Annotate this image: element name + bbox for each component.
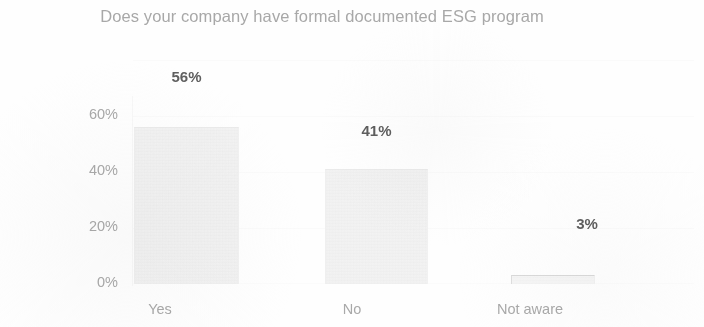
y-tick-text: 40%: [89, 162, 118, 178]
x-category-label-yes: Yes: [100, 301, 220, 317]
y-tick-text: 0%: [97, 274, 118, 290]
y-tick-label-20: 20%: [0, 218, 118, 234]
data-label-no: 41%: [325, 122, 428, 139]
x-category-text: No: [343, 301, 362, 317]
gridline-40: [133, 116, 694, 117]
y-tick-label-0: 0%: [0, 274, 118, 290]
bar-chart: Does your company have formal documented…: [0, 0, 704, 327]
y-tick-text: 60%: [89, 106, 118, 122]
x-category-label-not-aware: Not aware: [468, 301, 592, 317]
chart-title: Does your company have formal documented…: [0, 7, 704, 26]
x-category-text: Not aware: [497, 301, 563, 317]
gridline-60: [133, 60, 694, 61]
data-label-yes: 56%: [134, 68, 239, 85]
data-label-not-aware: 3%: [545, 215, 629, 232]
y-tick-label-40: 40%: [0, 162, 118, 178]
x-category-label-no: No: [292, 301, 412, 317]
bar-not-aware[interactable]: [511, 275, 595, 284]
y-tick-label-60: 60%: [0, 106, 118, 122]
plot-area: 56% 41% 3%: [133, 60, 694, 284]
bar-yes[interactable]: [134, 127, 239, 284]
y-tick-text: 20%: [89, 218, 118, 234]
x-category-text: Yes: [148, 301, 172, 317]
bar-no[interactable]: [325, 169, 428, 284]
